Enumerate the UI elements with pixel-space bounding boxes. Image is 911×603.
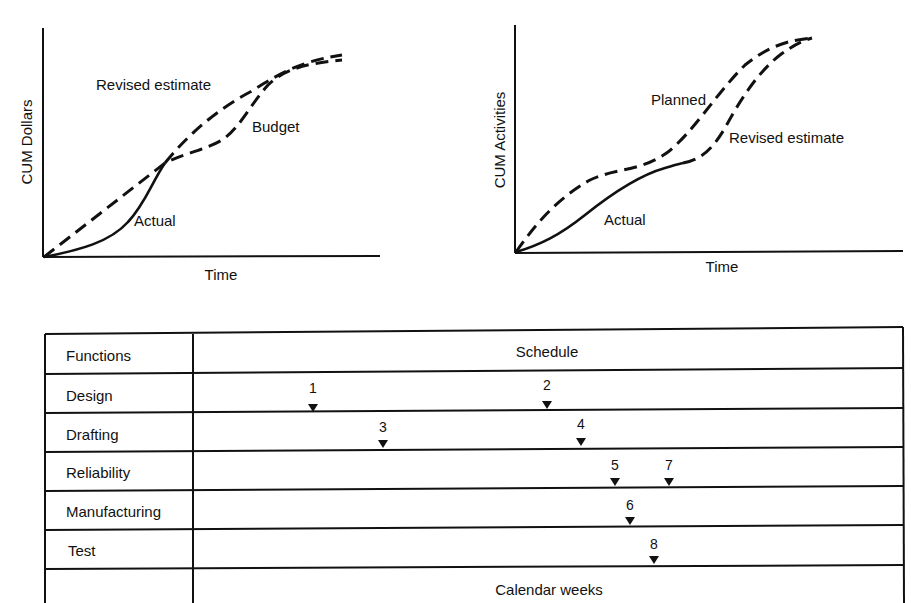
left-revised-curve bbox=[165, 55, 342, 163]
header-functions: Functions bbox=[66, 347, 131, 364]
right-actual-curve bbox=[516, 163, 683, 252]
milestone-4: 4 bbox=[576, 416, 586, 446]
table-rule bbox=[45, 368, 903, 374]
right-x-label: Time bbox=[706, 258, 739, 275]
table-rule bbox=[45, 525, 903, 530]
table-rule bbox=[45, 447, 903, 452]
right-chart: CUM Activities Time Planned Revised esti… bbox=[491, 25, 903, 275]
left-y-label: CUM Dollars bbox=[18, 99, 35, 184]
left-x-label: Time bbox=[205, 266, 238, 283]
milestone-3: 3 bbox=[378, 419, 388, 448]
left-chart: CUM Dollars Time Revised estimate Budget… bbox=[18, 28, 380, 283]
milestone-triangle-icon bbox=[664, 478, 674, 486]
milestone-triangle-icon bbox=[378, 440, 388, 448]
milestone-number: 5 bbox=[611, 457, 619, 473]
milestone-5: 5 bbox=[610, 457, 620, 486]
table-rule bbox=[45, 486, 903, 491]
milestone-7: 7 bbox=[664, 457, 674, 486]
milestone-1: 1 bbox=[308, 380, 318, 412]
figure: CUM Dollars Time Revised estimate Budget… bbox=[0, 0, 911, 603]
row-label-design: Design bbox=[66, 387, 113, 404]
right-label-actual: Actual bbox=[604, 211, 646, 228]
row-label-drafting: Drafting bbox=[66, 426, 119, 443]
milestone-triangle-icon bbox=[625, 517, 635, 525]
milestone-6: 6 bbox=[625, 497, 635, 525]
milestone-triangle-icon bbox=[610, 478, 620, 486]
right-label-revised: Revised estimate bbox=[729, 129, 844, 146]
milestone-number: 1 bbox=[309, 380, 317, 396]
milestone-triangle-icon bbox=[576, 438, 586, 446]
left-label-actual: Actual bbox=[134, 212, 176, 229]
right-y-label: CUM Activities bbox=[491, 92, 508, 189]
milestone-number: 7 bbox=[665, 457, 673, 473]
milestone-number: 8 bbox=[650, 536, 658, 552]
table-text: Functions Schedule Design Drafting Relia… bbox=[66, 343, 674, 598]
table-rule bbox=[45, 408, 903, 413]
footer-calendar-weeks: Calendar weeks bbox=[495, 581, 603, 598]
milestone-8: 8 bbox=[649, 536, 659, 564]
left-label-revised: Revised estimate bbox=[96, 76, 211, 93]
header-schedule: Schedule bbox=[516, 343, 579, 360]
milestone-triangle-icon bbox=[649, 556, 659, 564]
row-label-manufacturing: Manufacturing bbox=[66, 503, 161, 520]
row-label-test: Test bbox=[68, 542, 96, 559]
schedule-table bbox=[45, 327, 904, 603]
milestone-number: 6 bbox=[626, 497, 634, 513]
milestone-number: 3 bbox=[379, 419, 387, 435]
milestone-number: 4 bbox=[577, 416, 585, 432]
right-x-axis bbox=[515, 251, 903, 253]
right-label-planned: Planned bbox=[651, 91, 706, 108]
left-x-axis bbox=[43, 256, 380, 257]
table-rule bbox=[45, 565, 903, 569]
table-right-border bbox=[903, 327, 904, 603]
left-label-budget: Budget bbox=[252, 118, 300, 135]
milestone-number: 2 bbox=[543, 377, 551, 393]
milestone-2: 2 bbox=[542, 377, 552, 409]
table-rule bbox=[45, 327, 903, 334]
milestone-triangle-icon bbox=[542, 401, 552, 409]
row-label-reliability: Reliability bbox=[66, 464, 131, 481]
